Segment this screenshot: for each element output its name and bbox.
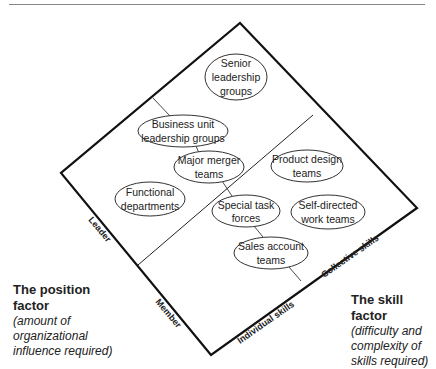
svg-text:Special task: Special task xyxy=(218,199,275,211)
ellipse-major-merger-teams: Major merger teams xyxy=(174,151,244,183)
position-factor-desc-3: influence required) xyxy=(13,344,123,359)
svg-text:Business unit: Business unit xyxy=(152,118,215,130)
position-factor-desc-2: organizational xyxy=(13,329,123,344)
svg-text:teams: teams xyxy=(293,167,322,179)
svg-text:Functional: Functional xyxy=(126,186,174,198)
svg-text:Senior: Senior xyxy=(221,57,252,69)
svg-text:leadership groups: leadership groups xyxy=(141,132,224,144)
skill-factor-desc-3: skills required) xyxy=(351,354,436,369)
svg-text:Sales account: Sales account xyxy=(238,240,304,252)
ellipse-product-design-teams: Product design teams xyxy=(271,150,343,182)
ellipse-functional-departments: Functional departments xyxy=(115,182,185,216)
skill-factor-title: The skill factor xyxy=(351,292,436,324)
ellipse-business-unit-leadership-groups: Business unit leadership groups xyxy=(138,115,228,147)
skill-factor-desc-2: complexity of xyxy=(351,339,436,354)
ellipse-senior-leadership-groups: Senior leadership groups xyxy=(205,54,267,100)
svg-text:teams: teams xyxy=(195,168,224,180)
skill-factor-desc-1: (difficulty and xyxy=(351,324,436,339)
position-factor-title-1: The position xyxy=(13,282,123,298)
svg-text:departments: departments xyxy=(121,200,179,212)
ellipse-sales-account-teams: Sales account teams xyxy=(234,237,308,269)
position-factor-caption: The position factor (amount of organizat… xyxy=(13,282,123,359)
connector-line xyxy=(222,181,232,196)
position-factor-desc-1: (amount of xyxy=(13,314,123,329)
ellipse-special-task-forces: Special task forces xyxy=(212,195,280,227)
svg-text:forces: forces xyxy=(232,212,261,224)
svg-text:groups: groups xyxy=(220,85,252,97)
svg-text:work teams: work teams xyxy=(300,213,355,225)
connector-line xyxy=(153,98,170,116)
svg-text:leadership: leadership xyxy=(212,71,261,83)
label-individual-skills: Individual skills xyxy=(235,299,296,346)
connector-line xyxy=(289,267,301,281)
svg-text:Major merger: Major merger xyxy=(178,154,241,166)
connector-line xyxy=(254,226,263,237)
svg-text:teams: teams xyxy=(257,254,286,266)
position-factor-title-2: factor xyxy=(13,298,123,314)
ellipse-self-directed-work-teams: Self-directed work teams xyxy=(291,195,365,229)
svg-text:Self-directed: Self-directed xyxy=(299,199,358,211)
skill-factor-caption: The skill factor (difficulty and complex… xyxy=(351,292,436,369)
label-collective-skills: Collective skills xyxy=(319,233,380,280)
svg-text:Product design: Product design xyxy=(272,153,342,165)
